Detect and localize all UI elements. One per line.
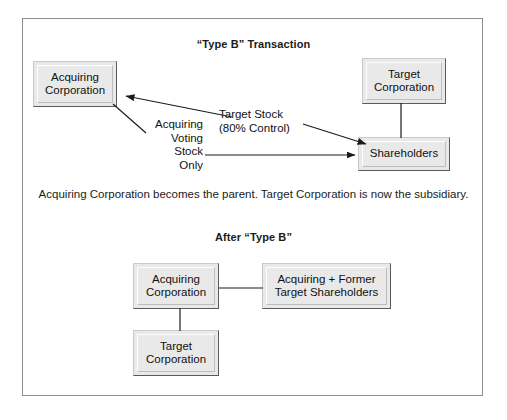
type-b-transaction-figure: “Type B” Transaction Acquiring Corporati… xyxy=(0,0,507,420)
edge-label-target-stock-80-percent-control: Target Stock (80% Control) xyxy=(219,108,309,135)
box-label: Target Corporation xyxy=(374,68,434,94)
box-target-corporation-after: Target Corporation xyxy=(133,330,219,376)
section-title-type-b-transaction: “Type B” Transaction xyxy=(0,38,507,50)
box-label: Shareholders xyxy=(370,147,438,160)
box-shareholders: Shareholders xyxy=(358,137,450,171)
box-label: Acquiring + Former Target Shareholders xyxy=(275,273,379,299)
box-acquiring-corporation-top: Acquiring Corporation xyxy=(33,61,117,107)
box-label: Acquiring Corporation xyxy=(146,273,206,299)
box-label: Acquiring Corporation xyxy=(45,71,105,97)
figure-caption: Acquiring Corporation becomes the parent… xyxy=(0,187,507,201)
box-target-corporation-top: Target Corporation xyxy=(362,58,446,104)
box-acquiring-plus-former-target-shareholders: Acquiring + Former Target Shareholders xyxy=(262,263,391,309)
edge-label-acquiring-voting-stock-only: Acquiring Voting Stock Only xyxy=(135,118,203,172)
section-title-after-type-b: After “Type B” xyxy=(0,231,507,243)
box-label: Target Corporation xyxy=(146,340,206,366)
box-acquiring-corporation-after: Acquiring Corporation xyxy=(133,263,219,309)
